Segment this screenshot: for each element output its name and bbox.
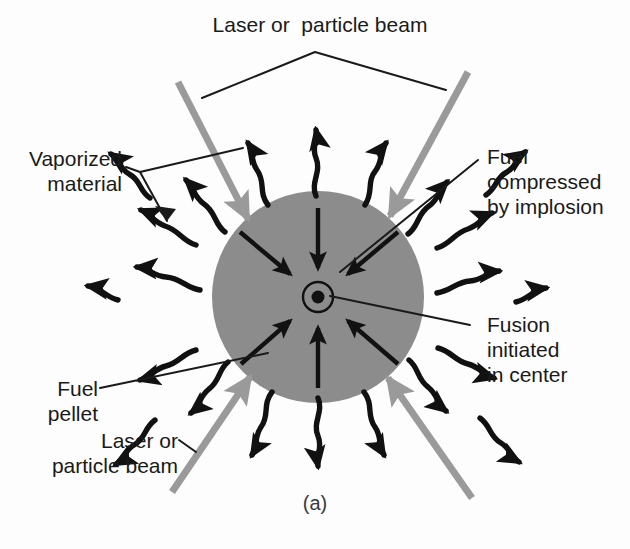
vapor-arrow-right-upper — [437, 213, 492, 248]
vapor-arrow-left-lower — [140, 350, 196, 380]
beam-top-right — [390, 72, 468, 216]
vapor-arrow-right-lower — [438, 348, 494, 378]
vapor-arrow-lower-left — [191, 362, 228, 413]
vapor-arrow-top-center — [314, 130, 318, 196]
beam-top-left — [178, 82, 248, 219]
label-fuel-pellet-line2: pellet — [0, 401, 98, 426]
label-fuel-pellet-line1: Fuel — [0, 376, 98, 401]
label-fuel-compressed-line1: Fuel — [487, 144, 528, 169]
vapor-arrow-right-middle — [437, 271, 499, 293]
vapor-arrow-left-middle — [137, 267, 200, 290]
label-fusion-initiated-line2: initiated — [487, 337, 559, 362]
vapor-arrow-bottom-left — [252, 392, 272, 455]
label-fusion-initiated-line1: Fusion — [487, 312, 550, 337]
leader-top-beam-bracket — [202, 52, 446, 98]
vapor-arrow-bottom-right — [364, 392, 384, 455]
core-dot — [312, 291, 325, 304]
fusion-diagram-figure: Laser or particle beam Vaporized materia… — [0, 0, 630, 549]
vapor-arrow-far-left-middle — [88, 286, 118, 300]
vapor-arrow-upper-left-outer — [186, 180, 225, 232]
leader-bottom-beam — [179, 440, 196, 452]
label-bottom-beam-line2: particle beam — [0, 453, 178, 478]
vapor-arrow-lower-right — [409, 360, 446, 411]
label-fuel-compressed-line3: by implosion — [487, 194, 604, 219]
label-fuel-compressed-line2: compressed — [487, 169, 601, 194]
label-top-beam: Laser or particle beam — [150, 12, 490, 37]
figure-caption: (a) — [0, 492, 630, 515]
vapor-arrow-bottom-center — [316, 398, 320, 466]
label-fusion-initiated-line3: in center — [487, 362, 568, 387]
leader-vaporized-arrowhead — [155, 206, 176, 221]
vapor-arrow-top-right — [365, 143, 386, 205]
vapor-arrow-far-right-middle — [516, 288, 546, 302]
label-vaporized-material-line1: Vaporized — [0, 146, 122, 171]
label-vaporized-material-line2: material — [0, 171, 122, 196]
beam-bottom-right — [388, 378, 472, 498]
beam-bottom-left — [172, 377, 250, 492]
vapor-arrow-top-left — [248, 143, 268, 205]
label-bottom-beam-line1: Laser or — [0, 428, 178, 453]
vapor-arrow-far-right-lower — [480, 418, 519, 462]
